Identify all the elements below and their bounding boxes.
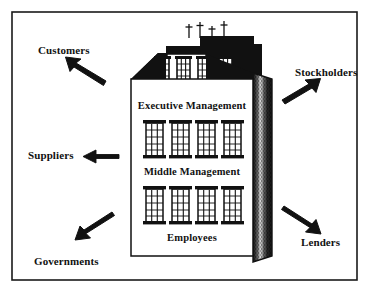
window-mid-1	[143, 120, 166, 158]
stakeholder-label-lenders: Lenders	[301, 236, 341, 248]
window-bot-4	[221, 186, 244, 224]
floor-label-executive: Executive Management	[138, 100, 247, 111]
floor-label-middle: Middle Management	[144, 166, 241, 177]
window-bot-2	[169, 186, 192, 224]
stakeholder-label-customers: Customers	[38, 44, 90, 56]
stakeholder-label-suppliers: Suppliers	[28, 149, 74, 161]
window-mid-2	[169, 120, 192, 158]
window-bot-3	[195, 186, 218, 224]
window-mid-4	[221, 120, 244, 158]
floor-label-employees: Employees	[167, 232, 217, 243]
window-mid-3	[195, 120, 218, 158]
stakeholder-label-stockholders: Stockholders	[295, 66, 358, 78]
window-bot-1	[143, 186, 166, 224]
building-side-wall-texture	[253, 73, 272, 262]
stakeholder-label-governments: Governments	[34, 255, 99, 267]
stakeholder-diagram-figure: Executive Management	[0, 0, 368, 292]
